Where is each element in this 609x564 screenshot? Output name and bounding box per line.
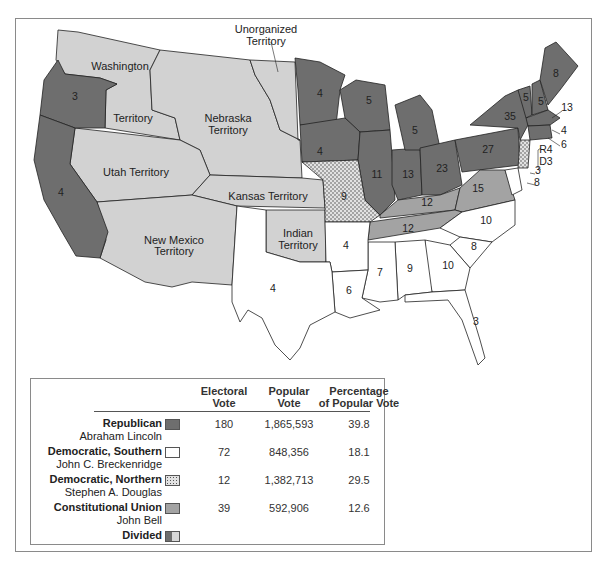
- party-name: Constitutional Union: [54, 501, 162, 514]
- territory-label: Indian: [283, 227, 313, 239]
- legend-row-northern-democrat: Democratic, NorthernStephen A. Douglas 1…: [31, 473, 386, 501]
- electoral-vote: 12: [204, 474, 244, 486]
- legend-row-southern-democrat: Democratic, SouthernJohn C. Breckenridge…: [31, 445, 386, 473]
- territory-label: Washington: [91, 60, 149, 72]
- territory-label: Utah Territory: [103, 166, 169, 178]
- territory-label: Territory: [208, 124, 248, 136]
- electoral-vote-label: 4: [317, 145, 323, 157]
- electoral-vote: 72: [204, 446, 244, 458]
- legend-table: ElectoralVote PopularVote Percentageof P…: [30, 378, 385, 545]
- electoral-vote-label: 10: [480, 214, 492, 226]
- header-percentage: Percentageof Popular Vote: [314, 385, 404, 409]
- electoral-vote-label: 4: [58, 186, 64, 198]
- electoral-vote-label: 4: [270, 282, 276, 294]
- electoral-vote-label: D3: [539, 155, 553, 167]
- legend-row-republican: RepublicanAbraham Lincoln 180 1,865,593 …: [31, 417, 386, 445]
- electoral-vote-label: 3: [535, 164, 541, 176]
- percentage: 18.1: [324, 446, 394, 458]
- candidate-name: Abraham Lincoln: [79, 430, 162, 443]
- territory-label: Unorganized: [235, 23, 297, 35]
- florida: [405, 290, 485, 365]
- electoral-vote-label: 5: [523, 91, 529, 103]
- header-rule: [94, 411, 370, 412]
- party-name: Republican: [79, 417, 162, 430]
- popular-vote: 1,865,593: [249, 418, 329, 430]
- candidate-name: Stephen A. Douglas: [50, 486, 162, 499]
- electoral-vote-label: 3: [72, 90, 78, 102]
- electoral-vote-label: 23: [436, 162, 448, 174]
- electoral-vote-label: 5: [412, 124, 418, 136]
- electoral-vote-label: 8: [534, 176, 540, 188]
- candidate-name: John C. Breckenridge: [48, 458, 162, 471]
- divided-swatch: [165, 531, 180, 542]
- party-name: Divided: [122, 529, 162, 542]
- electoral-vote-label: 7: [377, 266, 383, 278]
- electoral-vote-label: 10: [442, 259, 454, 271]
- electoral-vote-label: 9: [341, 190, 347, 202]
- connecticut-ri: [528, 125, 552, 140]
- territory-label: Territory: [154, 245, 194, 257]
- territory-label: Territory: [113, 112, 153, 124]
- iowa: [300, 118, 360, 162]
- electoral-vote-label: 3: [473, 315, 479, 327]
- percentage: 12.6: [324, 502, 394, 514]
- territory-label: Territory: [278, 239, 318, 251]
- popular-vote: 848,356: [249, 446, 329, 458]
- territory-label: Nebraska: [204, 112, 252, 124]
- legend-row-divided: Divided: [31, 529, 386, 557]
- electoral-vote: 39: [204, 502, 244, 514]
- electoral-vote-label: 27: [482, 143, 494, 155]
- popular-vote: 592,906: [249, 502, 329, 514]
- electoral-vote-label: 8: [553, 67, 559, 79]
- electoral-vote-label: 4: [561, 124, 567, 136]
- percentage: 39.8: [324, 418, 394, 430]
- electoral-vote-label: 5: [366, 94, 372, 106]
- electoral-vote-label: R4: [539, 143, 553, 155]
- electoral-vote: 180: [204, 418, 244, 430]
- popular-vote: 1,382,713: [249, 474, 329, 486]
- electoral-vote-label: 8: [471, 240, 477, 252]
- electoral-vote-label: 4: [343, 239, 349, 251]
- territory-label: Territory: [246, 35, 286, 47]
- party-name: Democratic, Northern: [50, 473, 162, 486]
- candidate-name: John Bell: [54, 514, 162, 527]
- electoral-vote-label: 6: [346, 284, 352, 296]
- southern-democrat-swatch: [165, 447, 180, 458]
- alabama: [395, 240, 432, 300]
- new-jersey: [518, 140, 530, 168]
- maine: [540, 42, 578, 105]
- electoral-vote-label: 9: [407, 262, 413, 274]
- legend-row-constitutional-union: Constitutional UnionJohn Bell 39 592,906…: [31, 501, 386, 529]
- electoral-vote-label: 15: [472, 182, 484, 194]
- northern-democrat-swatch: [165, 475, 180, 486]
- electoral-vote-label: 5: [538, 95, 544, 107]
- header-electoral-vote: ElectoralVote: [194, 385, 254, 409]
- michigan: [395, 95, 440, 150]
- electoral-vote-label: 12: [402, 222, 414, 234]
- territory-label: Kansas Territory: [228, 190, 308, 202]
- party-name: Democratic, Southern: [48, 445, 162, 458]
- electoral-vote-label: 6: [561, 138, 567, 150]
- republican-swatch: [165, 419, 180, 430]
- electoral-vote-label: 4: [317, 87, 323, 99]
- electoral-vote-label: 35: [504, 110, 516, 122]
- percentage: 29.5: [324, 474, 394, 486]
- electoral-vote-label: 12: [421, 196, 433, 208]
- constitutional-union-swatch: [165, 503, 180, 514]
- electoral-vote-label: 13: [561, 101, 573, 113]
- electoral-vote-label: 11: [372, 168, 383, 180]
- electoral-vote-label: 13: [402, 168, 414, 180]
